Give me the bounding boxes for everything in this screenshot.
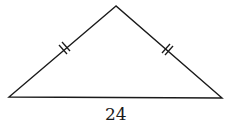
isosceles-triangle-diagram: 24 <box>0 0 234 132</box>
base-length-label: 24 <box>105 104 127 124</box>
triangle-outline <box>9 6 222 98</box>
